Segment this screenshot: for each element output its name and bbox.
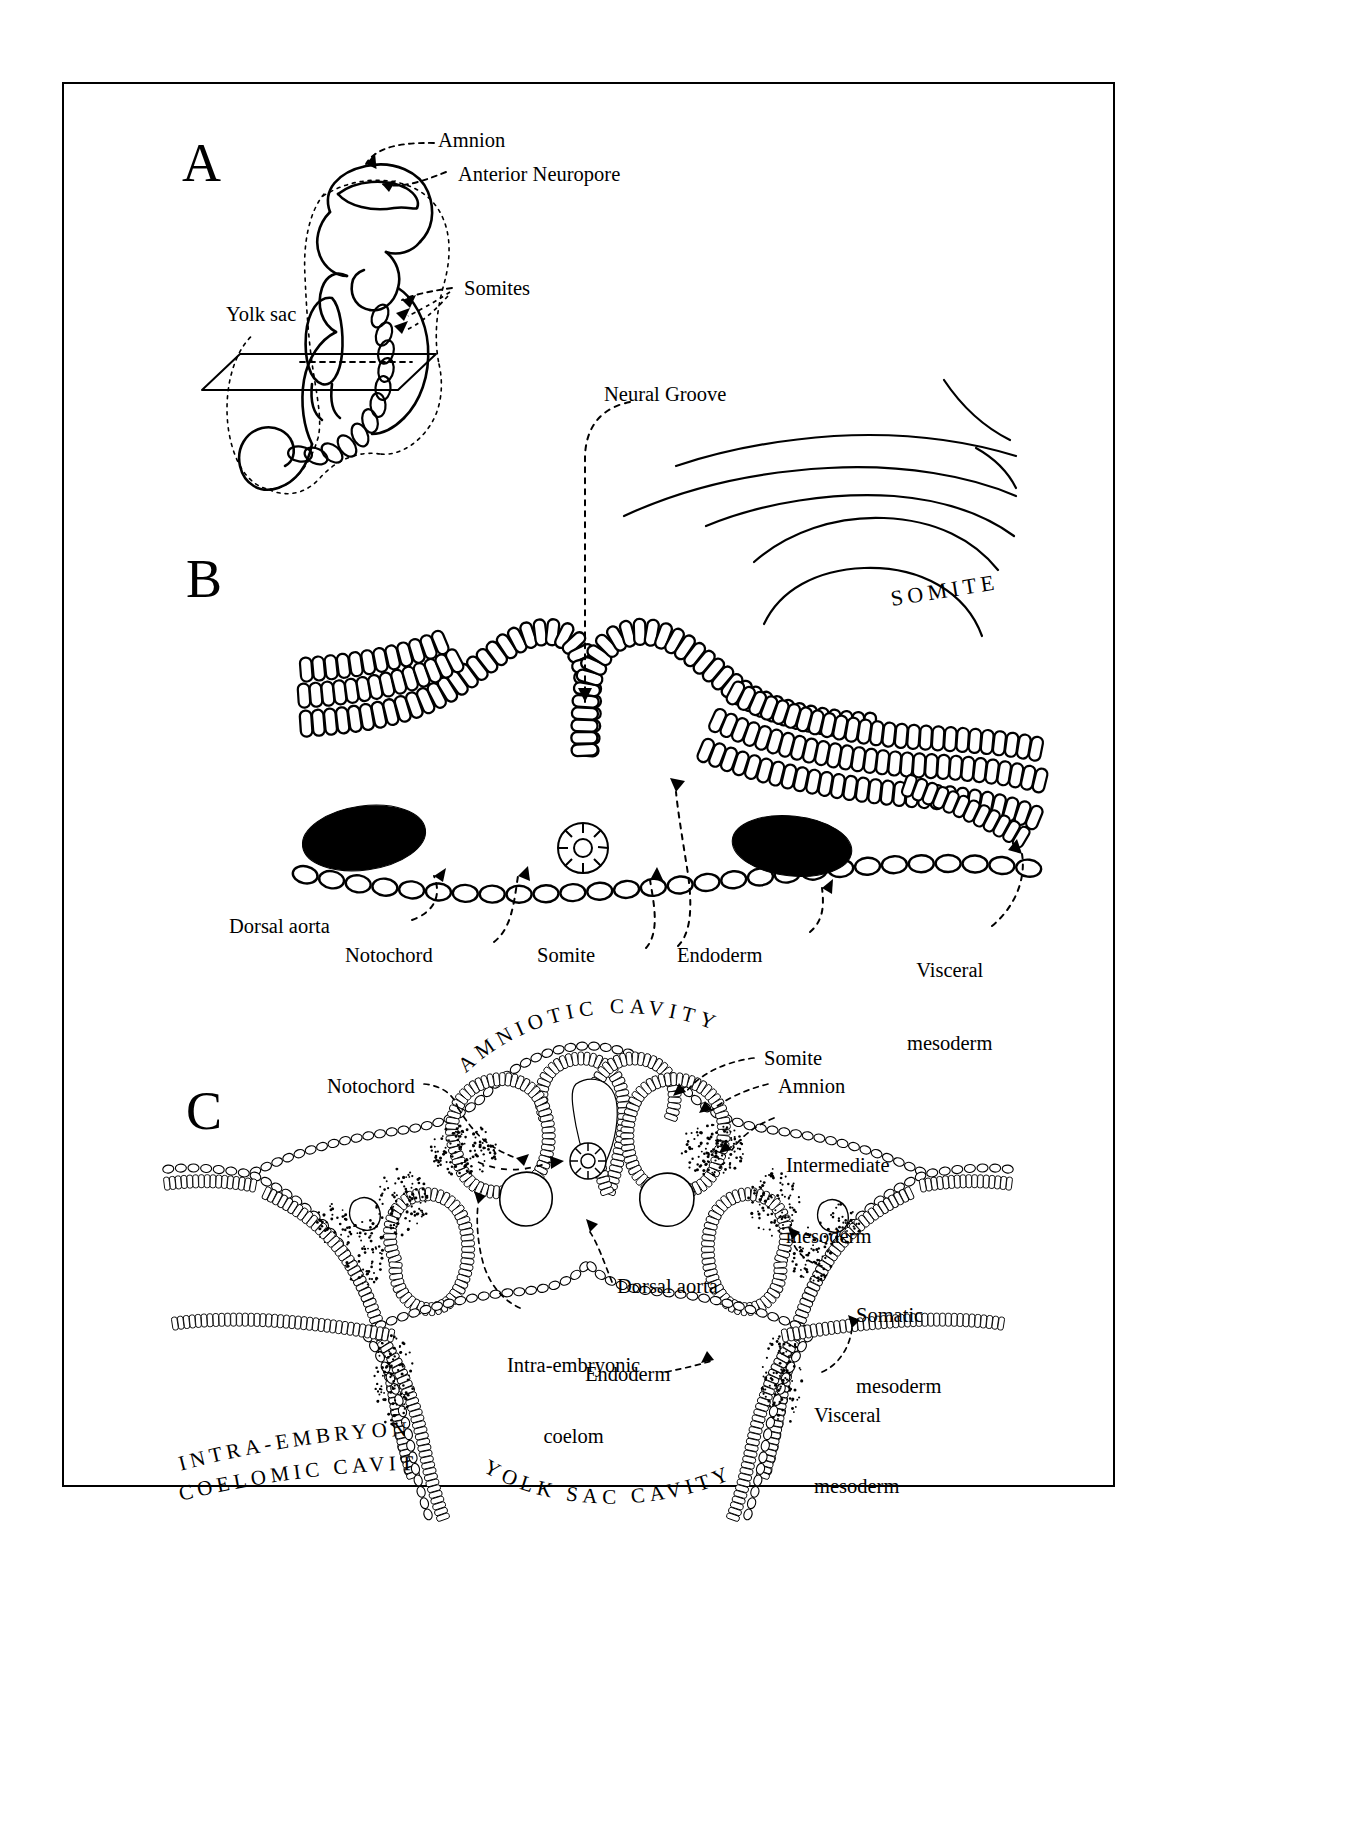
label-endoderm-c: Endoderm bbox=[585, 1362, 670, 1386]
svg-text:COELOMIC CAVITY: COELOMIC CAVITY bbox=[54, 65, 418, 1506]
label-dorsal-aorta-c: Dorsal aorta bbox=[617, 1274, 718, 1298]
label-somatic-mesoderm-line1: Somatic bbox=[856, 1304, 941, 1328]
svg-text:AMNIOTIC CAVITY: AMNIOTIC CAVITY bbox=[453, 994, 724, 1077]
label-intermediate-mesoderm-line1: Intermediate bbox=[786, 1154, 890, 1178]
figure-page: A bbox=[0, 0, 1356, 1823]
figure-border: A bbox=[62, 82, 1115, 1487]
coelomic-cavity-line2-text: COELOMIC CAVITY bbox=[54, 65, 418, 1506]
label-intermediate-mesoderm-line2: mesoderm bbox=[786, 1225, 890, 1249]
amniotic-cavity-text: AMNIOTIC CAVITY bbox=[453, 994, 724, 1077]
label-somite-c: Somite bbox=[764, 1046, 822, 1070]
label-intra-embryonic-coelom-line2: coelom bbox=[507, 1425, 640, 1449]
label-visceral-mesoderm-c-line2: mesoderm bbox=[814, 1475, 899, 1499]
label-visceral-mesoderm-c-line1: Visceral bbox=[814, 1404, 899, 1428]
coelomic-cavity-line1-text: INTRA-EMBRYONIC bbox=[55, 65, 412, 1476]
label-notochord-c: Notochord bbox=[327, 1074, 415, 1098]
label-intra-embryonic-coelom: Intra-embryonic coelom bbox=[507, 1306, 640, 1496]
svg-text:INTRA-EMBRYONIC: INTRA-EMBRYONIC bbox=[55, 65, 412, 1476]
label-amnion-c: Amnion bbox=[778, 1074, 845, 1098]
label-visceral-mesoderm-c: Visceral mesoderm bbox=[814, 1356, 899, 1546]
